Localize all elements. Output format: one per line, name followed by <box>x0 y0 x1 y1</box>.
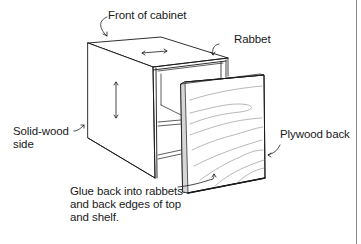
front-leader <box>101 17 107 36</box>
label-front-of-cabinet: Front of cabinet <box>108 9 186 22</box>
label-plywood-back: Plywood back <box>280 128 350 141</box>
side-leader <box>74 125 84 131</box>
label-rabbet: Rabbet <box>234 33 270 46</box>
label-glue-instruction: Glue back into rabbets and back edges of… <box>70 185 183 224</box>
page-edge-rule <box>356 0 357 244</box>
label-solid-wood-side: Solid-wood side <box>13 125 69 151</box>
